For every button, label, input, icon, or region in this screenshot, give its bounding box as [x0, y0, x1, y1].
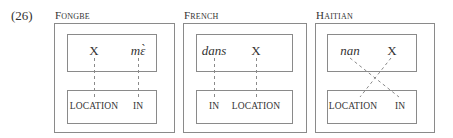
panel-title: Fongbe [55, 9, 90, 21]
example-number: (26) [11, 8, 33, 24]
sem-location: LOCATION [232, 101, 280, 111]
sem-in: IN [395, 101, 405, 111]
word-x: X [251, 43, 260, 59]
sem-location: LOCATION [329, 101, 377, 111]
panel-title: French [184, 9, 218, 21]
word-me: mɛ̀ [131, 43, 146, 59]
word-dans: dans [202, 43, 227, 59]
sem-in: IN [133, 101, 143, 111]
word-nan: nan [340, 43, 360, 59]
word-x: X [89, 43, 98, 59]
word-x: X [387, 43, 396, 59]
panel-title: Haitian [316, 9, 353, 21]
sem-location: LOCATION [70, 101, 118, 111]
sem-in: IN [209, 101, 219, 111]
